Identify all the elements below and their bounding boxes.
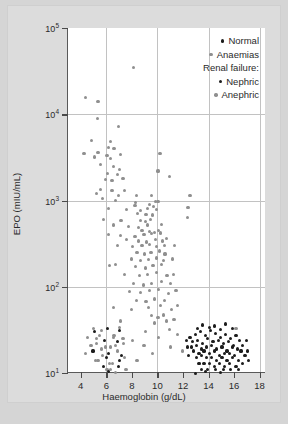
gridline-horizontal: [68, 114, 265, 115]
data-point: [181, 349, 184, 352]
data-point: [222, 368, 225, 371]
data-point: [118, 359, 121, 362]
data-point: [147, 258, 150, 261]
data-point: [176, 304, 179, 307]
x-tick-mark: [157, 372, 158, 378]
data-point: [123, 356, 126, 359]
figure-card: 101102103104105 4681012141618 NormalAnae…: [8, 6, 280, 402]
data-point: [132, 66, 135, 69]
data-point: [107, 207, 110, 210]
data-point: [122, 342, 125, 345]
data-point: [217, 339, 220, 342]
data-point: [228, 362, 231, 365]
data-point: [103, 339, 106, 342]
data-point: [213, 324, 216, 327]
data-point: [239, 349, 242, 352]
data-point: [86, 336, 89, 339]
data-point: [210, 356, 213, 359]
data-point: [95, 192, 98, 195]
data-point: [106, 327, 109, 330]
data-point: [131, 339, 134, 342]
x-tick-mark: [81, 372, 82, 378]
data-point: [111, 362, 114, 365]
x-axis-label: Haemoglobin (g/dL): [8, 391, 280, 402]
data-point: [119, 219, 122, 222]
data-point: [135, 251, 138, 254]
data-point: [194, 372, 197, 375]
data-point: [107, 146, 110, 149]
x-tick-mark: [234, 372, 235, 378]
data-point: [93, 330, 96, 333]
data-point: [204, 370, 207, 373]
data-point: [237, 359, 240, 362]
data-point: [157, 336, 160, 339]
data-point: [118, 329, 121, 332]
data-point: [100, 347, 103, 350]
data-point: [194, 333, 197, 336]
data-point: [104, 345, 107, 348]
data-point: [96, 151, 99, 154]
data-point: [139, 209, 142, 212]
data-point: [153, 297, 156, 300]
data-point: [163, 252, 166, 255]
data-point: [169, 345, 172, 348]
data-point: [211, 340, 214, 343]
y-tick-mark: [62, 373, 68, 374]
data-point: [116, 349, 119, 352]
data-point: [199, 330, 202, 333]
data-point: [186, 216, 189, 219]
data-point: [148, 203, 151, 206]
x-tick-label: 10: [152, 381, 163, 391]
y-tick-label: 104: [45, 109, 59, 120]
data-point: [108, 264, 111, 267]
data-point: [121, 337, 124, 340]
data-point: [157, 288, 160, 291]
data-point: [202, 349, 205, 352]
data-point: [150, 194, 153, 197]
data-point: [219, 328, 222, 331]
data-point: [200, 354, 203, 357]
data-point: [160, 263, 163, 266]
y-tick-mark: [62, 287, 68, 288]
data-point: [99, 188, 102, 191]
data-point: [172, 273, 175, 276]
data-point: [98, 334, 101, 337]
data-point: [201, 342, 204, 345]
data-point: [237, 368, 240, 371]
data-point: [218, 362, 221, 365]
scatter-plot-area: 101102103104105 4681012141618 NormalAnae…: [67, 28, 265, 373]
data-point: [95, 342, 98, 345]
data-point: [165, 237, 168, 240]
data-point: [153, 321, 156, 324]
data-point: [186, 206, 189, 209]
data-point: [149, 251, 152, 254]
data-point: [168, 328, 171, 331]
data-point: [91, 349, 94, 352]
data-point: [160, 280, 163, 283]
x-tick-mark: [132, 372, 133, 378]
data-point: [110, 189, 113, 192]
data-point: [186, 345, 189, 348]
data-point: [93, 155, 96, 158]
data-point: [238, 339, 241, 342]
data-point: [114, 371, 117, 374]
data-point: [214, 332, 217, 335]
data-point: [172, 318, 175, 321]
data-point: [139, 291, 142, 294]
y-tick-label: 101: [45, 368, 59, 379]
data-point: [138, 274, 141, 277]
x-tick-mark: [183, 372, 184, 378]
data-point: [150, 314, 153, 317]
data-point: [109, 345, 112, 348]
data-point: [136, 212, 139, 215]
chart-legend: NormalAnaemiasRenal failure:NephricAneph…: [203, 34, 259, 102]
data-point: [144, 330, 147, 333]
legend-item: Nephric: [203, 75, 259, 89]
data-point: [146, 207, 149, 210]
data-point: [114, 344, 117, 347]
data-point: [159, 304, 162, 307]
data-point: [137, 239, 140, 242]
data-point: [156, 200, 159, 203]
data-point: [135, 299, 138, 302]
data-point: [162, 313, 165, 316]
